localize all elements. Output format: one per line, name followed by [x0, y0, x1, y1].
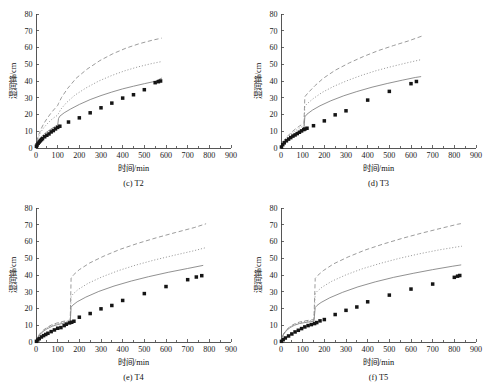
y-tick-label: 30 [24, 288, 32, 297]
y-axis-title: 湿润锋/cm [8, 256, 18, 293]
x-tick-label: 100 [52, 345, 64, 354]
x-tick-label: 200 [73, 151, 85, 160]
x-tick-label: 0 [34, 151, 38, 160]
y-axis-title: 湿润锋/cm [253, 256, 263, 293]
y-tick-label: 0 [273, 144, 277, 153]
y-tick-label: 70 [269, 221, 277, 230]
x-tick-label: 0 [279, 151, 283, 160]
x-tick-label: 300 [340, 151, 352, 160]
chart-panel-d: 0102030405060708001002003004005006007008… [245, 0, 489, 194]
x-tick-label: 900 [225, 151, 237, 160]
x-tick-label: 700 [182, 151, 194, 160]
x-axis-title: 时间/min [363, 357, 395, 367]
x-tick-label: 800 [448, 345, 460, 354]
x-tick-label: 700 [427, 345, 439, 354]
x-tick-label: 800 [203, 151, 215, 160]
y-tick-label: 30 [269, 288, 277, 297]
y-tick-label: 0 [273, 338, 277, 347]
x-tick-label: 400 [362, 151, 374, 160]
y-tick-label: 30 [24, 94, 32, 103]
x-tick-label: 100 [52, 151, 64, 160]
curve-model-solid [36, 265, 203, 342]
figure-wetting-front-panels: 0102030405060708001002003004005006007008… [0, 0, 489, 388]
x-tick-label: 800 [203, 345, 215, 354]
x-tick-label: 300 [340, 345, 352, 354]
x-tick-label: 700 [182, 345, 194, 354]
x-tick-label: 500 [138, 151, 150, 160]
curve-model-solid [281, 77, 421, 148]
y-tick-label: 80 [269, 10, 277, 19]
y-tick-label: 60 [269, 237, 277, 246]
x-tick-label: 200 [73, 345, 85, 354]
y-tick-label: 0 [28, 144, 32, 153]
y-tick-label: 20 [269, 110, 277, 119]
y-axis-title: 湿润锋/cm [8, 62, 18, 99]
x-tick-label: 700 [427, 151, 439, 160]
y-tick-label: 20 [24, 110, 32, 119]
chart-panel-e: 0102030405060708001002003004005006007008… [0, 194, 244, 388]
y-tick-label: 60 [24, 43, 32, 52]
chart-panel-f: 0102030405060708001002003004005006007008… [245, 194, 489, 388]
x-tick-label: 600 [160, 345, 172, 354]
y-tick-label: 20 [269, 304, 277, 313]
curve-model-dotted [36, 62, 162, 148]
y-tick-label: 70 [269, 27, 277, 36]
y-tick-label: 10 [24, 127, 32, 136]
x-tick-label: 600 [160, 151, 172, 160]
x-tick-label: 400 [117, 345, 129, 354]
y-tick-label: 80 [269, 204, 277, 213]
y-tick-label: 40 [269, 271, 277, 280]
x-tick-label: 900 [470, 345, 482, 354]
y-tick-label: 0 [28, 338, 32, 347]
y-tick-label: 10 [24, 321, 32, 330]
x-tick-label: 800 [448, 151, 460, 160]
y-tick-label: 50 [269, 254, 277, 263]
y-tick-label: 30 [269, 94, 277, 103]
x-tick-label: 600 [405, 151, 417, 160]
y-axis-title: 湿润锋/cm [253, 62, 263, 99]
y-tick-label: 40 [24, 77, 32, 86]
x-axis-title: 时间/min [118, 357, 150, 367]
data-points-measured [35, 79, 163, 148]
y-tick-label: 70 [24, 27, 32, 36]
curve-model-dotted [281, 246, 462, 342]
x-tick-label: 300 [95, 151, 107, 160]
x-tick-label: 500 [383, 345, 395, 354]
curve-model-solid [281, 265, 461, 342]
x-tick-label: 200 [318, 151, 330, 160]
x-axis-title: 时间/min [118, 163, 150, 173]
panel-caption: (c) T2 [123, 179, 144, 188]
panel-caption: (f) T5 [369, 373, 389, 382]
x-tick-label: 600 [405, 345, 417, 354]
panel-caption: (e) T4 [123, 373, 144, 382]
x-tick-label: 0 [34, 345, 38, 354]
data-points-measured [280, 80, 418, 149]
y-tick-label: 20 [24, 304, 32, 313]
y-tick-label: 50 [269, 60, 277, 69]
y-tick-label: 80 [24, 204, 32, 213]
y-tick-label: 10 [269, 127, 277, 136]
x-tick-label: 100 [297, 151, 309, 160]
x-tick-label: 300 [95, 345, 107, 354]
y-tick-label: 60 [269, 43, 277, 52]
y-tick-label: 50 [24, 60, 32, 69]
curve-model-dotted [281, 60, 421, 148]
y-tick-label: 60 [24, 237, 32, 246]
x-tick-label: 200 [318, 345, 330, 354]
x-tick-label: 100 [297, 345, 309, 354]
x-tick-label: 400 [362, 345, 374, 354]
x-tick-label: 500 [383, 151, 395, 160]
chart-panel-c: 0102030405060708001002003004005006007008… [0, 0, 244, 194]
x-tick-label: 400 [117, 151, 129, 160]
y-tick-label: 80 [24, 10, 32, 19]
x-tick-label: 0 [279, 345, 283, 354]
y-tick-label: 70 [24, 221, 32, 230]
y-tick-label: 40 [24, 271, 32, 280]
data-points-measured [280, 274, 462, 343]
y-tick-label: 40 [269, 77, 277, 86]
panel-caption: (d) T3 [368, 179, 389, 188]
y-tick-label: 50 [24, 254, 32, 263]
x-tick-label: 900 [470, 151, 482, 160]
x-tick-label: 500 [138, 345, 150, 354]
x-axis-title: 时间/min [363, 163, 395, 173]
